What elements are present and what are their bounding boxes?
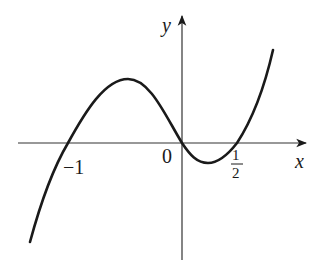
- cubic-curve: [30, 50, 273, 242]
- x-axis-label: x: [294, 150, 304, 172]
- tick-label-neg-one: −1: [63, 156, 84, 178]
- tick-label-one-half: 1 2: [231, 147, 243, 181]
- fraction-numerator: 1: [232, 147, 240, 163]
- y-axis-label: y: [160, 14, 171, 37]
- fraction-denominator: 2: [232, 165, 240, 181]
- cubic-graph: y x −1 0 1 2: [0, 0, 315, 260]
- tick-label-origin: 0: [162, 145, 172, 167]
